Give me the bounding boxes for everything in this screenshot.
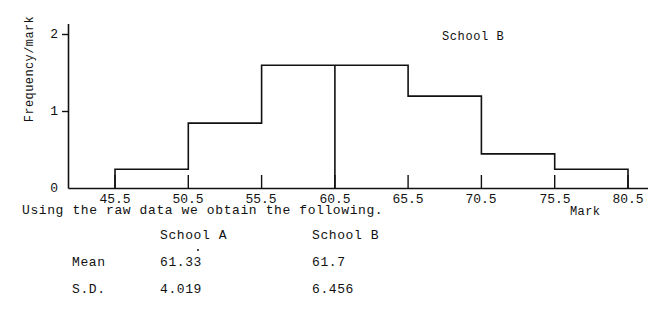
- table-header-row: School A School B: [0, 228, 656, 255]
- table-row-mean: Mean 61.33 61.7: [0, 255, 656, 282]
- x-tick-label-65-5: 65.5: [383, 192, 433, 207]
- y-tick-label-2: 2: [40, 27, 58, 42]
- column-header-school-b: School B: [312, 228, 379, 243]
- chart-series-annotation: School B: [442, 30, 504, 44]
- y-axis-title: Frequency/mark: [23, 9, 37, 129]
- recurring-digit-value: 3: [194, 255, 202, 270]
- sd-school-b: 6.456: [312, 282, 354, 297]
- x-tick-label-80-5: 80.5: [603, 192, 653, 207]
- mean-school-a-prefix: 61.3: [160, 255, 194, 270]
- prose-line: Using the raw data we obtain the followi…: [22, 203, 383, 218]
- x-axis-title: Mark: [570, 205, 600, 219]
- mean-school-a-recurring-digit: 3: [194, 255, 202, 270]
- y-tick-label-0: 0: [40, 181, 58, 196]
- row-label-sd: S.D.: [72, 282, 106, 297]
- histogram-figure: Frequency/mark 0 1 2 45.5 50.5 55.5 60.5…: [0, 0, 656, 225]
- sd-school-a: 4.019: [160, 282, 202, 297]
- row-label-mean: Mean: [72, 255, 106, 270]
- statistics-table: School A School B Mean 61.33 61.7 S.D. 4…: [0, 228, 656, 309]
- mean-school-a: 61.33: [160, 255, 202, 270]
- recurring-decimal-dot-icon: [197, 249, 199, 251]
- histogram-outline: [115, 65, 628, 188]
- x-tick-label-70-5: 70.5: [456, 192, 506, 207]
- column-header-school-a: School A: [160, 228, 227, 243]
- page-root: Frequency/mark 0 1 2 45.5 50.5 55.5 60.5…: [0, 0, 656, 317]
- y-tick-label-1: 1: [40, 104, 58, 119]
- table-row-sd: S.D. 4.019 6.456: [0, 282, 656, 309]
- mean-school-b: 61.7: [312, 255, 346, 270]
